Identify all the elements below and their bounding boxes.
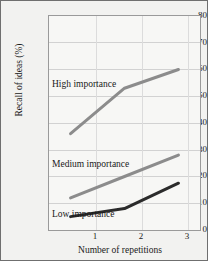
x-tick-label-3: 3 — [175, 231, 199, 241]
x-tick-label-2: 2 — [129, 231, 153, 241]
series-lines — [49, 16, 200, 230]
x-axis-title: Number of repetitions — [35, 245, 205, 255]
series-label-high: High importance — [52, 79, 116, 89]
chart-figure: Recall of ideas (%) 80 70 60 50 40 30 20… — [0, 0, 208, 261]
series-label-medium: Medium importance — [52, 159, 129, 169]
plot-area — [48, 15, 201, 231]
y-axis-title: Recall of ideas (%) — [14, 10, 24, 150]
x-tick-label-1: 1 — [83, 231, 107, 241]
series-label-low: Low importance — [52, 209, 115, 219]
